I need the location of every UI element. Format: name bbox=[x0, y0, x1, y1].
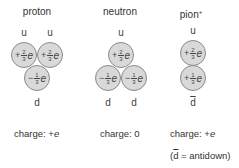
quark-circle: +23e bbox=[11, 42, 37, 68]
quark-circle: +23e bbox=[37, 42, 63, 68]
quark-label: u bbox=[47, 28, 53, 38]
quark-label: u bbox=[21, 28, 27, 38]
quark-circle: −13e bbox=[121, 65, 147, 91]
quark-circle: +23e bbox=[108, 42, 134, 68]
pion-charge: charge: +e bbox=[170, 128, 215, 139]
proton-charge: charge: +e bbox=[14, 128, 59, 139]
proton-label: proton bbox=[23, 7, 51, 17]
quark-label: d bbox=[131, 98, 137, 108]
quark-circle: −13e bbox=[24, 65, 50, 91]
quark-circle: +23e bbox=[180, 40, 206, 66]
quark-circle: +13e bbox=[180, 65, 206, 91]
antiquark-label: d bbox=[190, 98, 196, 108]
neutron-charge: charge: 0 bbox=[100, 128, 140, 139]
quark-label: d bbox=[34, 98, 40, 108]
antidown-footnote: (d = antidown) bbox=[170, 150, 231, 161]
quark-label: u bbox=[190, 26, 196, 36]
quark-circle: −13e bbox=[95, 65, 121, 91]
quark-label: d bbox=[105, 98, 111, 108]
neutron-label: neutron bbox=[103, 7, 137, 17]
pion-label: pion+ bbox=[180, 7, 202, 20]
quark-label: u bbox=[118, 28, 124, 38]
